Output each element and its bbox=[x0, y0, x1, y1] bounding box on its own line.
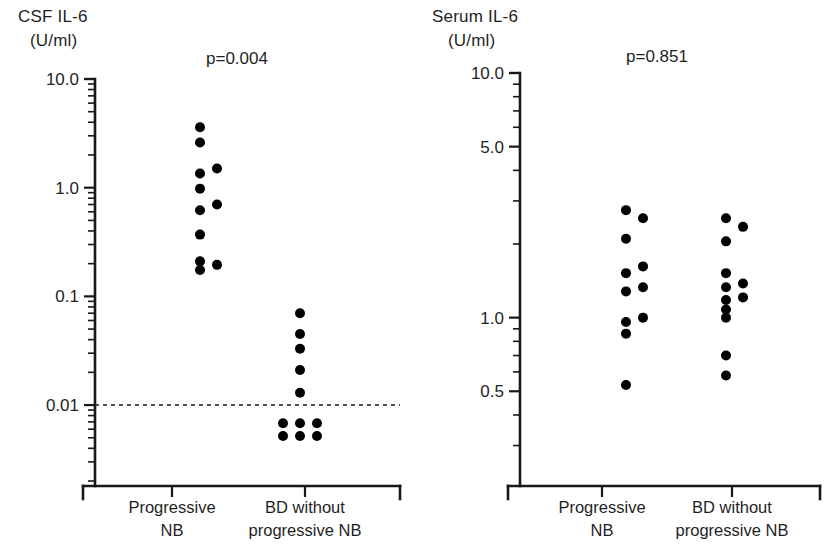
data-point bbox=[195, 138, 205, 148]
serum-y-tick-label: 0.5 bbox=[480, 382, 504, 401]
csf-y-tick-label: 0.01 bbox=[46, 396, 79, 415]
data-point bbox=[721, 282, 731, 292]
serum-data-points bbox=[621, 205, 748, 390]
data-point bbox=[195, 122, 205, 132]
csf-plot-svg: CSF IL-6 (U/ml) p=0.004 10.01.00.10.01 P… bbox=[0, 0, 415, 554]
data-point bbox=[195, 205, 205, 215]
data-point bbox=[212, 164, 222, 174]
data-point bbox=[721, 213, 731, 223]
serum-group-2-label-line1: BD without bbox=[692, 498, 772, 516]
data-point bbox=[312, 431, 322, 441]
csf-axis-title-line2: (U/ml) bbox=[30, 31, 77, 50]
data-point bbox=[295, 365, 305, 375]
serum-plot-svg: Serum IL-6 (U/ml) p=0.851 10.05.01.00.5 … bbox=[412, 0, 827, 554]
serum-group-2-label-line2: progressive NB bbox=[676, 521, 789, 539]
csf-y-tick-labels: 10.01.00.10.01 bbox=[46, 70, 79, 415]
data-point bbox=[295, 418, 305, 428]
data-point bbox=[278, 431, 288, 441]
serum-axis bbox=[508, 73, 820, 499]
csf-y-tick-label: 1.0 bbox=[55, 179, 79, 198]
serum-pvalue-annotation: p=0.851 bbox=[626, 47, 688, 66]
data-point bbox=[621, 234, 631, 244]
data-point bbox=[212, 260, 222, 270]
data-point bbox=[312, 418, 322, 428]
csf-pvalue-annotation: p=0.004 bbox=[206, 49, 268, 68]
panel-csf-il6: CSF IL-6 (U/ml) p=0.004 10.01.00.10.01 P… bbox=[0, 0, 415, 554]
csf-group-2-label-line1: BD without bbox=[265, 498, 345, 516]
csf-group-1-label-line1: Progressive bbox=[128, 498, 215, 516]
csf-axis-title-line1: CSF IL-6 bbox=[18, 7, 88, 26]
data-point bbox=[638, 261, 648, 271]
data-point bbox=[638, 313, 648, 323]
data-point bbox=[738, 278, 748, 288]
data-point bbox=[738, 292, 748, 302]
data-point bbox=[195, 230, 205, 240]
data-point bbox=[621, 205, 631, 215]
csf-data-points bbox=[195, 122, 322, 441]
data-point bbox=[278, 418, 288, 428]
data-point bbox=[721, 371, 731, 381]
csf-group-1-label-line2: NB bbox=[161, 521, 184, 539]
data-point bbox=[721, 295, 731, 305]
figure-root: CSF IL-6 (U/ml) p=0.004 10.01.00.10.01 P… bbox=[0, 0, 827, 554]
serum-axis-title-line1: Serum IL-6 bbox=[432, 7, 518, 26]
data-point bbox=[638, 213, 648, 223]
data-point bbox=[295, 329, 305, 339]
data-point bbox=[621, 329, 631, 339]
data-point bbox=[295, 388, 305, 398]
data-point bbox=[721, 351, 731, 361]
serum-y-tick-label: 5.0 bbox=[480, 138, 504, 157]
panel-serum-il6: Serum IL-6 (U/ml) p=0.851 10.05.01.00.5 … bbox=[412, 0, 827, 554]
data-point bbox=[295, 431, 305, 441]
csf-y-tick-label: 10.0 bbox=[46, 70, 79, 89]
serum-y-tick-label: 10.0 bbox=[471, 64, 504, 83]
data-point bbox=[195, 169, 205, 179]
data-point bbox=[195, 256, 205, 266]
data-point bbox=[295, 344, 305, 354]
data-point bbox=[621, 380, 631, 390]
data-point bbox=[638, 282, 648, 292]
data-point bbox=[721, 268, 731, 278]
serum-y-tick-label: 1.0 bbox=[480, 309, 504, 328]
data-point bbox=[295, 308, 305, 318]
csf-axis bbox=[83, 79, 400, 499]
data-point bbox=[195, 184, 205, 194]
data-point bbox=[721, 313, 731, 323]
serum-group-1-label-line2: NB bbox=[591, 521, 614, 539]
serum-group-1-label-line1: Progressive bbox=[558, 498, 645, 516]
data-point bbox=[621, 317, 631, 327]
csf-y-tick-label: 0.1 bbox=[55, 287, 79, 306]
serum-y-tick-labels: 10.05.01.00.5 bbox=[471, 64, 504, 401]
data-point bbox=[195, 265, 205, 275]
serum-axis-title-line2: (U/ml) bbox=[448, 31, 495, 50]
data-point bbox=[621, 268, 631, 278]
csf-group-2-label-line2: progressive NB bbox=[249, 521, 362, 539]
data-point bbox=[212, 200, 222, 210]
data-point bbox=[621, 286, 631, 296]
data-point bbox=[738, 222, 748, 232]
data-point bbox=[721, 236, 731, 246]
